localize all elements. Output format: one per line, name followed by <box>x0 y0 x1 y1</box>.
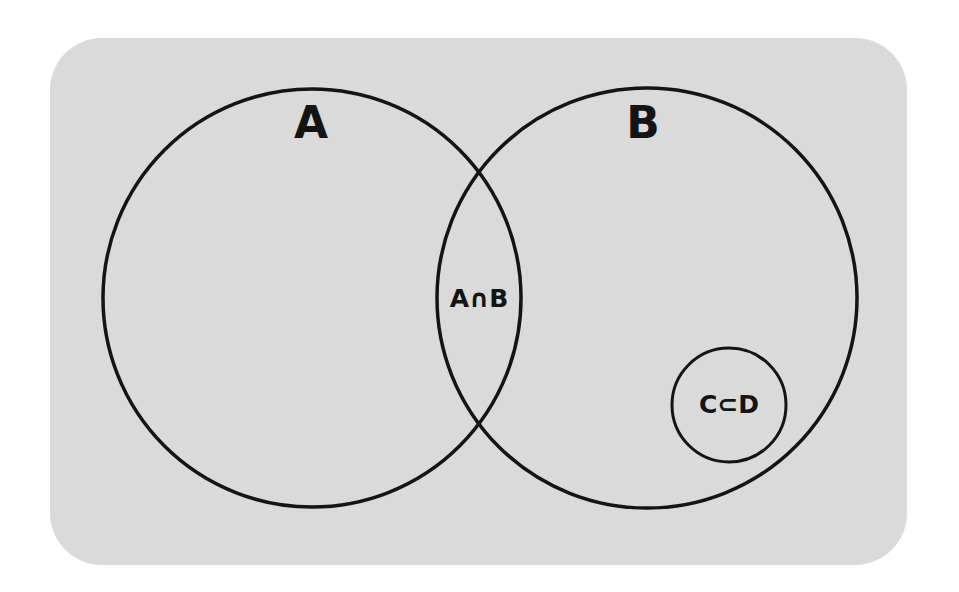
label-intersection: A∩B <box>450 286 509 311</box>
label-set-a: A <box>294 101 328 145</box>
label-subset: C⊂D <box>699 392 759 417</box>
label-set-b: B <box>626 101 660 145</box>
